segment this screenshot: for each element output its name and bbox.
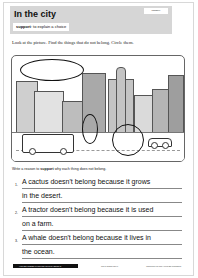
wheel bbox=[29, 148, 36, 155]
wheel bbox=[151, 142, 158, 149]
building bbox=[34, 91, 64, 133]
prompt-bold: support bbox=[40, 167, 53, 171]
building bbox=[168, 75, 184, 133]
footer-series: HIGHER ORDER THINKING SKILLS • BOOK 2 bbox=[13, 264, 78, 268]
support-text: : to explain a choice bbox=[31, 24, 66, 29]
building bbox=[62, 101, 84, 133]
prompt-text: Write a reason to bbox=[12, 167, 40, 171]
road bbox=[12, 132, 184, 161]
cactus-circle bbox=[82, 114, 98, 144]
worksheet-header: In the city Imagery support: to explain … bbox=[10, 6, 172, 34]
footer-publisher: www.prim-ed.com • Prim-Ed Publishing bbox=[146, 264, 181, 268]
wheel bbox=[162, 142, 169, 149]
answer-line: A cactus doesn't belong because it grows bbox=[22, 176, 182, 189]
page-title: In the city bbox=[14, 9, 56, 19]
answer-line: A whale doesn't belong because it lives … bbox=[22, 232, 182, 245]
prompt-text: why each thing does not belong. bbox=[54, 167, 107, 171]
footer-isbn: 978-1-86365-787-6 bbox=[101, 264, 118, 268]
city-picture bbox=[11, 55, 185, 162]
tractor-circle bbox=[112, 124, 144, 156]
support-definition: support: to explain a choice bbox=[13, 23, 69, 31]
answer-number: 2. bbox=[15, 211, 18, 215]
instructions: Look at the picture. Find the things tha… bbox=[12, 40, 134, 45]
answer-number: 3. bbox=[15, 239, 18, 243]
page-footer: HIGHER ORDER THINKING SKILLS • BOOK 2 97… bbox=[13, 264, 181, 269]
bus bbox=[22, 134, 74, 153]
tower bbox=[116, 67, 126, 133]
answer-number: 1. bbox=[15, 183, 18, 187]
answer-line: on a farm. bbox=[22, 218, 182, 231]
category-tag: Imagery bbox=[144, 8, 168, 14]
answer-line: in the desert. bbox=[22, 190, 182, 203]
writing-prompt: Write a reason to support why each thing… bbox=[12, 167, 106, 171]
car bbox=[148, 138, 172, 147]
whale-circle bbox=[20, 59, 84, 81]
wheel bbox=[60, 148, 67, 155]
answer-line: the ocean. bbox=[22, 246, 182, 259]
answer-line: A tractor doesn't belong because it is u… bbox=[22, 204, 182, 217]
support-label: support bbox=[16, 24, 31, 29]
